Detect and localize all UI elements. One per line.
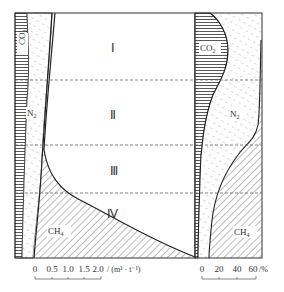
- left-panel: [15, 13, 195, 258]
- left-scale: 0 0.5 1.0 1.5 2.0 / (m³ · t⁻¹): [33, 264, 141, 279]
- right-n2-label: N2: [229, 108, 243, 120]
- right-axis-unit: /%: [259, 265, 268, 274]
- right-scale: 0 20 40 60 /%: [200, 264, 268, 279]
- left-ch4-label: CH4: [47, 225, 71, 237]
- right-tick-20: 20: [215, 264, 225, 274]
- zone-label-IV: Ⅳ: [107, 207, 118, 221]
- zone-label-I: Ⅰ: [111, 41, 115, 55]
- right-co2-label: CO2: [199, 42, 221, 54]
- right-tick-40: 40: [233, 264, 243, 274]
- right-scale-bar: [202, 276, 256, 279]
- gas-zone-diagram: Ⅰ Ⅱ Ⅲ Ⅳ CO2 N2 CH4 CO2 N2 CH4 0 0.5 1.0 …: [0, 0, 284, 292]
- right-ch4-label: CH4: [233, 226, 257, 238]
- right-tick-0: 0: [200, 264, 205, 274]
- left-tick-2.0: 2.0: [92, 264, 104, 274]
- zone-label-III: Ⅲ: [110, 164, 118, 178]
- left-co2-label: CO2: [17, 29, 28, 55]
- left-n2-label: N2: [26, 107, 39, 119]
- left-tick-1.5: 1.5: [78, 264, 90, 274]
- left-tick-1.0: 1.0: [62, 264, 74, 274]
- left-scale-bar: [35, 276, 101, 279]
- left-axis-unit: / (m³ · t⁻¹): [107, 265, 141, 274]
- left-tick-0: 0: [33, 264, 38, 274]
- left-tick-0.5: 0.5: [46, 264, 58, 274]
- zone-label-II: Ⅱ: [110, 108, 116, 122]
- right-tick-60: 60: [249, 264, 259, 274]
